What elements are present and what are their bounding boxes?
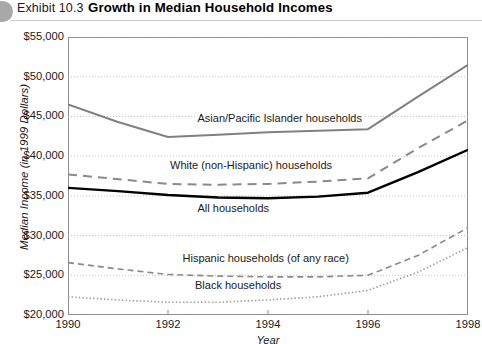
y-tick-label: $25,000 [2, 268, 64, 280]
x-tick-label: 1994 [238, 318, 298, 330]
x-tick-label: 1992 [138, 318, 198, 330]
circle-bullet-icon [0, 1, 13, 22]
exhibit-title: Growth in Median Household Incomes [88, 0, 333, 15]
series-label-1: Asian/Pacific Islander households [196, 112, 364, 125]
x-tick-label: 1998 [438, 318, 482, 330]
chart-container: $20,000$25,000$30,000$35,000$40,000$45,0… [0, 22, 482, 344]
y-tick-label: $45,000 [2, 109, 64, 121]
x-axis-tick-labels: 19901992199419961998 [68, 318, 468, 334]
exhibit-header: Exhibit 10.3 Growth in Median Household … [0, 0, 482, 22]
x-tick-label: 1996 [338, 318, 398, 330]
y-tick-label: $50,000 [2, 70, 64, 82]
y-tick-label: $55,000 [2, 30, 64, 42]
header-divider [10, 20, 482, 21]
x-axis-title: Year [68, 334, 468, 344]
y-tick-label: $40,000 [2, 149, 64, 161]
series-label-4: Hispanic households (of any race) [181, 252, 351, 265]
series-label-5: Black households [193, 279, 283, 292]
series-label-2: White (non-Hispanic) households [168, 159, 334, 172]
y-axis-tick-labels: $20,000$25,000$30,000$35,000$40,000$45,0… [0, 37, 64, 315]
y-tick-label: $30,000 [2, 229, 64, 241]
y-tick-label: $35,000 [2, 189, 64, 201]
exhibit-number-label: Exhibit 10.3 [17, 1, 84, 15]
y-axis-title: Median Income (in 1999 Dollars) [18, 57, 30, 277]
x-tick-label: 1990 [38, 318, 98, 330]
series-label-3: All households [196, 202, 272, 215]
series-line-1 [68, 65, 468, 137]
series-line-3 [68, 150, 468, 198]
plot-lines [68, 37, 468, 315]
